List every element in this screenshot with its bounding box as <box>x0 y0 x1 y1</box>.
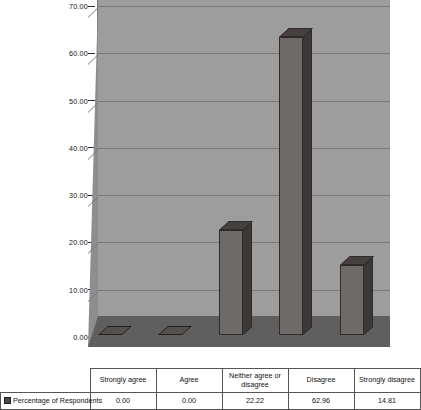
chart-bar <box>219 230 243 335</box>
y-axis-tick-label: 70.00 <box>28 2 88 11</box>
y-axis-tick-label: 0.00 <box>28 333 88 342</box>
chart-bar <box>340 265 364 335</box>
table-header-cell: Neither agree or disagree <box>222 369 288 393</box>
chart-bar-side <box>364 257 373 335</box>
legend-series-cell: Percentage of Respondents <box>1 393 91 410</box>
gridline <box>97 101 390 102</box>
y-axis-tick-label: 20.00 <box>28 238 88 247</box>
y-axis-tick-label: 10.00 <box>28 285 88 294</box>
chart-bar-side <box>303 29 312 335</box>
table-corner-cell <box>1 369 91 393</box>
table-header-cell: Agree <box>156 369 222 393</box>
table-header-cell: Strongly agree <box>90 369 156 393</box>
table-value-row: Percentage of Respondents 0.000.0022.226… <box>1 393 421 410</box>
legend-swatch-icon <box>4 397 11 404</box>
gridline <box>97 148 390 149</box>
y-axis-tick-label: 60.00 <box>28 49 88 58</box>
y-axis-tick-label: 50.00 <box>28 96 88 105</box>
y-axis-tick-label: 40.00 <box>28 143 88 152</box>
table-header-cell: Disagree <box>288 369 354 393</box>
chart-bar <box>279 37 303 335</box>
gridline <box>97 195 390 196</box>
chart-plot-region: 70.0060.0050.0040.0030.0020.0010.000.00 <box>0 0 390 368</box>
chart-bar-front <box>340 265 364 335</box>
y-axis-tick-label: 30.00 <box>28 191 88 200</box>
table-value-cell: 0.00 <box>156 393 222 410</box>
table-header-cell: Strongly disagree <box>354 369 420 393</box>
chart-bar-front <box>279 37 303 335</box>
chart-data-table: Strongly agreeAgreeNeither agree or disa… <box>0 368 421 410</box>
table-value-cell: 62.96 <box>288 393 354 410</box>
chart-bar-front <box>219 230 243 335</box>
legend-series-label: Percentage of Respondents <box>13 396 102 405</box>
table-header-row: Strongly agreeAgreeNeither agree or disa… <box>1 369 421 393</box>
gridline <box>97 53 390 54</box>
gridline <box>97 6 390 7</box>
table-value-cell: 14.81 <box>354 393 420 410</box>
chart-3d-box <box>88 0 390 368</box>
chart-bar-side <box>243 222 252 335</box>
table-value-cell: 22.22 <box>222 393 288 410</box>
